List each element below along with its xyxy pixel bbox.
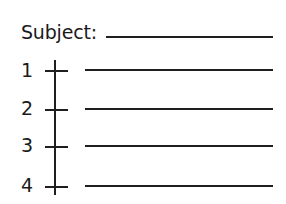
row-blank-line-4[interactable]	[85, 185, 273, 187]
row-number-4: 4	[21, 175, 33, 195]
tick-mark-4	[45, 186, 68, 188]
row-blank-line-3[interactable]	[85, 145, 273, 147]
row-number-2: 2	[21, 98, 33, 118]
vertical-axis-line	[54, 60, 56, 195]
row-blank-line-2[interactable]	[85, 108, 273, 110]
tick-mark-1	[45, 70, 68, 72]
row-number-3: 3	[21, 135, 33, 155]
tick-mark-2	[45, 109, 68, 111]
subject-label: Subject:	[21, 22, 97, 42]
row-number-1: 1	[21, 60, 33, 80]
row-blank-line-1[interactable]	[85, 69, 273, 71]
subject-blank-line[interactable]	[106, 36, 273, 38]
tick-mark-3	[45, 146, 68, 148]
